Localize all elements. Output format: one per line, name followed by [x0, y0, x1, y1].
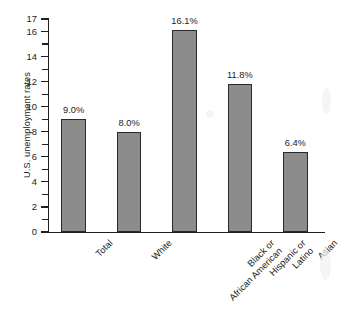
- bar-value-label: 16.1%: [161, 17, 209, 26]
- y-tick-minor: [42, 69, 48, 70]
- scan-speckle: [320, 250, 331, 280]
- y-tick-major: [41, 18, 48, 19]
- y-tick-major: [41, 56, 48, 57]
- y-tick-label: 0: [11, 227, 37, 236]
- y-tick-major: [41, 206, 48, 207]
- bar: [117, 132, 142, 233]
- y-tick-label: 2: [11, 202, 37, 211]
- y-tick-label: 10: [11, 102, 37, 111]
- y-tick-label: 8: [11, 127, 37, 136]
- bar: [283, 152, 308, 233]
- y-tick-major: [41, 81, 48, 82]
- bar-value-label: 11.8%: [216, 71, 264, 80]
- y-tick-label: 16: [11, 27, 37, 36]
- y-tick-label: 17: [11, 14, 37, 23]
- y-tick-label: 4: [11, 177, 37, 186]
- y-axis-line: [48, 18, 49, 233]
- bar-chart: U.S. unemployment rates 024681012141617 …: [0, 0, 338, 327]
- y-tick-minor: [42, 94, 48, 95]
- y-tick-minor: [42, 144, 48, 145]
- scan-speckle: [206, 110, 214, 118]
- y-tick-major: [41, 31, 48, 32]
- y-tick-minor: [42, 219, 48, 220]
- y-tick-label: 14: [11, 52, 37, 61]
- bar: [228, 84, 253, 232]
- bar-value-label: 9.0%: [50, 106, 98, 115]
- y-tick-minor: [42, 119, 48, 120]
- scan-speckle: [322, 88, 331, 114]
- y-tick-label: 12: [11, 77, 37, 86]
- y-tick-major: [41, 181, 48, 182]
- x-category-label: Total: [93, 238, 115, 260]
- y-tick-minor: [42, 169, 48, 170]
- y-tick-label: 6: [11, 152, 37, 161]
- bar-value-label: 6.4%: [271, 139, 319, 148]
- y-tick-major: [41, 231, 48, 232]
- y-tick-major: [41, 156, 48, 157]
- y-tick-major: [41, 106, 48, 107]
- y-tick-minor: [42, 194, 48, 195]
- bar-value-label: 8.0%: [105, 119, 153, 128]
- bar: [172, 30, 197, 232]
- y-tick-major: [41, 131, 48, 132]
- y-tick-minor: [42, 43, 48, 44]
- bar: [61, 119, 86, 232]
- x-category-label: White: [150, 238, 175, 263]
